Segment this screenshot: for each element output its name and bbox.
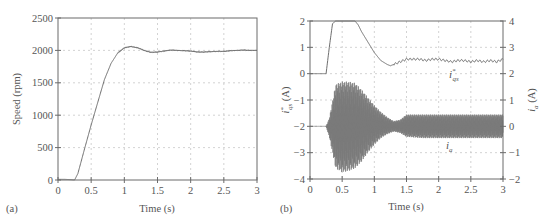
right-y-tick-label: 0	[509, 121, 514, 132]
right-y-tick-label: 4	[509, 16, 515, 27]
right-y-tick-label: −1	[509, 147, 520, 158]
x-tick-label: 2.5	[464, 184, 477, 195]
y-tick-label: 0	[48, 175, 53, 186]
left-y-tick-label: 1	[300, 42, 305, 53]
speed-chart-x-title: Time (s)	[139, 203, 175, 215]
left-y-tick-label: −3	[294, 147, 305, 158]
speed-chart: 00.511.522.5305001000150020002500 Time (…	[6, 13, 260, 216]
y-tick-label: 2000	[32, 45, 53, 56]
y-tick-label: 500	[37, 142, 53, 153]
x-tick-label: 0	[55, 185, 60, 196]
left-y-tick-label: −1	[294, 95, 305, 106]
panel-label-b: (b)	[280, 203, 293, 215]
left-y-tick-label: −2	[294, 121, 305, 132]
speed-chart-y-title: Speed (rpm)	[11, 72, 23, 125]
right-y-tick-label: −2	[509, 174, 520, 185]
panel-label-a: (a)	[6, 203, 18, 215]
x-tick-label: 3	[254, 185, 259, 196]
x-tick-label: 2	[436, 184, 441, 195]
x-tick-label: 3	[500, 184, 505, 195]
speed-chart-ticks: 00.511.522.5305001000150020002500	[32, 13, 260, 197]
x-tick-label: 0.5	[336, 184, 349, 195]
x-tick-label: 2.5	[217, 185, 230, 196]
ia-curve-label: ia	[446, 139, 453, 154]
ia-trace	[310, 82, 503, 172]
current-chart-right-y-title: ia (A)	[526, 88, 540, 112]
current-chart: 00.511.522.53−4−3−2−1012−2−101234 Time (…	[279, 16, 540, 216]
current-chart-x-title: Time (s)	[388, 201, 424, 213]
x-tick-label: 0.5	[85, 185, 98, 196]
left-y-tick-label: 2	[300, 16, 305, 27]
current-chart-left-y-title: i*qs (A)	[279, 86, 294, 113]
x-tick-label: 1.5	[151, 185, 164, 196]
x-tick-label: 0	[307, 184, 312, 195]
x-tick-label: 1	[372, 184, 377, 195]
right-y-tick-label: 3	[509, 42, 514, 53]
figure-canvas: 00.511.522.5305001000150020002500 Time (…	[0, 0, 552, 224]
left-y-tick-label: −4	[294, 174, 306, 185]
left-y-tick-label: 0	[300, 68, 305, 79]
x-tick-label: 1.5	[400, 184, 413, 195]
right-y-tick-label: 2	[509, 68, 514, 79]
y-tick-label: 1000	[32, 110, 53, 121]
y-tick-label: 2500	[32, 13, 53, 24]
iqs-curve-label: i*qs	[449, 67, 459, 83]
y-tick-label: 1500	[32, 77, 53, 88]
current-chart-ticks: 00.511.522.53−4−3−2−1012−2−101234	[294, 16, 520, 196]
x-tick-label: 2	[188, 185, 193, 196]
speed-chart-grid	[58, 18, 257, 180]
x-tick-label: 1	[122, 185, 127, 196]
svg-text:ia (A): ia (A)	[526, 88, 540, 112]
right-y-tick-label: 1	[509, 95, 514, 106]
svg-text:i*qs (A): i*qs (A)	[279, 86, 294, 113]
